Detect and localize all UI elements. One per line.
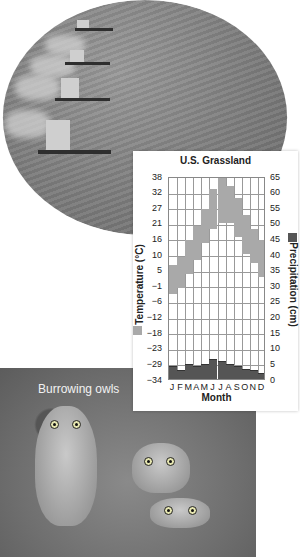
combine-harvester [65, 62, 110, 65]
y-tick-left: −12 [147, 313, 162, 322]
temperature-bar [209, 189, 217, 228]
temperature-bar [169, 265, 177, 293]
x-tick: F [176, 382, 184, 392]
temperature-bar [234, 198, 242, 237]
x-tick: J [208, 382, 216, 392]
y-tick-right: 40 [270, 251, 280, 260]
y-tick-left: 5 [157, 266, 162, 275]
y-tick-right: 5 [270, 360, 275, 369]
y-tick-right: 65 [270, 173, 280, 182]
precipitation-bar [185, 364, 193, 379]
y-tick-right: 10 [270, 344, 280, 353]
precipitation-bar [177, 370, 185, 379]
y-tick-right: 0 [270, 376, 275, 385]
temperature-bar [258, 240, 265, 277]
x-tick: J [168, 382, 176, 392]
gridline-vertical [185, 178, 186, 379]
plot-area [168, 177, 265, 380]
precipitation-legend-swatch [288, 233, 297, 242]
y-tick-right: 35 [270, 266, 280, 275]
y-tick-left: −29 [147, 360, 162, 369]
y-tick-left: −23 [147, 344, 162, 353]
y-tick-right: 30 [270, 282, 280, 291]
y-tick-right: 55 [270, 204, 280, 213]
x-tick: A [192, 382, 200, 392]
combine-harvester [75, 28, 113, 31]
y-tick-left: 16 [152, 235, 162, 244]
x-tick: M [200, 382, 208, 392]
precipitation-bar [193, 366, 201, 379]
gridline-vertical [258, 178, 259, 379]
gridline-vertical [250, 178, 251, 379]
y-tick-left: 38 [152, 173, 162, 182]
x-tick: D [257, 382, 265, 392]
x-axis-ticks: JFMAMJJASOND [168, 382, 265, 392]
y-axis-right-label: Precipitation (cm) [288, 242, 299, 326]
gridline-vertical [193, 178, 194, 379]
dust-cloud [15, 75, 60, 100]
x-tick: J [216, 382, 224, 392]
y-tick-right: 25 [270, 297, 280, 306]
precipitation-bar [218, 361, 226, 379]
x-axis-label: Month [168, 392, 265, 403]
temperature-bar [201, 209, 209, 243]
y-tick-left: 27 [152, 204, 162, 213]
owl [35, 406, 97, 526]
climatogram-card: U.S. Grassland Temperature (°C) Precipit… [133, 151, 298, 411]
y-tick-right: 50 [270, 219, 280, 228]
y-axis-left-label: Temperature (°C) [134, 244, 145, 325]
precipitation-bar [250, 370, 258, 379]
y-tick-left: 21 [152, 219, 162, 228]
temperature-bar [193, 226, 201, 260]
chart-title: U.S. Grassland [133, 155, 298, 166]
y-tick-right: 60 [270, 188, 280, 197]
precipitation-bar [169, 366, 177, 379]
precipitation-bar [242, 369, 250, 379]
temperature-bar [226, 186, 234, 223]
temperature-bar [177, 257, 185, 288]
owl [150, 498, 210, 528]
y-tick-left: −18 [147, 329, 162, 338]
combine-harvester [38, 150, 111, 154]
precipitation-bar [226, 364, 234, 379]
dust-cloud [5, 110, 50, 138]
x-tick: N [249, 382, 257, 392]
gridline-vertical [242, 178, 243, 379]
temperature-bar [185, 240, 193, 274]
combine-harvester [55, 98, 110, 101]
precipitation-bar [258, 373, 265, 379]
x-tick: A [225, 382, 233, 392]
y-tick-right: 45 [270, 235, 280, 244]
temperature-bar [250, 229, 258, 263]
x-tick: S [233, 382, 241, 392]
y-tick-left: 10 [152, 251, 162, 260]
x-tick: M [184, 382, 192, 392]
y-tick-right: 15 [270, 329, 280, 338]
precipitation-bar [201, 364, 209, 379]
owl [132, 443, 190, 493]
temperature-legend-swatch [133, 326, 142, 335]
y-tick-left: −1 [152, 282, 162, 291]
temperature-bar [242, 215, 250, 254]
dust-cloud [30, 55, 75, 77]
y-tick-left: −34 [147, 376, 162, 385]
photo-caption: Burrowing owls [38, 382, 119, 396]
temperature-bar [218, 178, 226, 223]
x-tick: O [241, 382, 249, 392]
y-tick-right: 20 [270, 313, 280, 322]
precipitation-bar [234, 366, 242, 379]
y-tick-left: −6 [152, 297, 162, 306]
precipitation-bar [209, 359, 217, 379]
y-tick-left: 32 [152, 188, 162, 197]
